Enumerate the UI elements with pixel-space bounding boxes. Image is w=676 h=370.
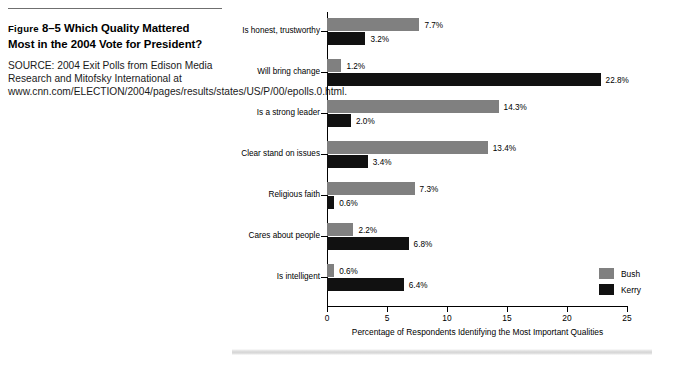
scan-artifact-band: [232, 349, 652, 355]
figure-source-note: SOURCE: 2004 Exit Polls from Edison Medi…: [8, 59, 230, 99]
category-group: Is honest, trustworthy7.7%3.2%: [228, 17, 668, 58]
category-label: Is intelligent: [170, 272, 320, 282]
category-label: Religious faith: [170, 190, 320, 200]
category-group: Clear stand on issues13.4%3.4%: [228, 140, 668, 181]
x-axis-tick: [507, 307, 508, 312]
bar-value-label: 0.6%: [339, 266, 358, 275]
bar-bush: 7.3%: [327, 182, 415, 195]
bar-value-label: 14.3%: [504, 102, 527, 111]
x-axis-tick-label: 10: [442, 313, 451, 323]
bar-kerry: 22.8%: [327, 73, 601, 86]
category-label: Will bring change: [170, 67, 320, 77]
bar-bush: 0.6%: [327, 264, 334, 277]
category-group: Is a strong leader14.3%2.0%: [228, 99, 668, 140]
bar-value-label: 6.4%: [409, 280, 428, 289]
bar-bush: 13.4%: [327, 141, 488, 154]
bar-kerry: 6.4%: [327, 278, 404, 291]
x-axis-tick: [387, 307, 388, 312]
x-axis-tick-label: 0: [325, 313, 330, 323]
bar-value-label: 2.2%: [358, 225, 377, 234]
category-label: Is a strong leader: [170, 108, 320, 118]
bar-value-label: 3.4%: [373, 157, 392, 166]
figure-number: 8–5: [42, 22, 61, 34]
bar-bush: 7.7%: [327, 18, 419, 31]
category-group: Cares about people2.2%6.8%: [228, 222, 668, 263]
bar-bush: 1.2%: [327, 59, 341, 72]
bar-value-label: 22.8%: [606, 75, 629, 84]
category-label: Is honest, trustworthy: [170, 26, 320, 36]
bar-value-label: 3.2%: [370, 34, 389, 43]
x-axis-tick-label: 20: [562, 313, 571, 323]
x-axis-title: Percentage of Respondents Identifying th…: [327, 327, 628, 337]
bar-kerry: 0.6%: [327, 196, 334, 209]
plot-area: 0510152025 Percentage of Respondents Ide…: [228, 12, 668, 312]
x-axis-tick-label: 5: [385, 313, 390, 323]
x-axis-tick: [327, 307, 328, 312]
bar-bush: 14.3%: [327, 100, 499, 113]
bar-value-label: 13.4%: [493, 143, 516, 152]
category-label: Cares about people: [170, 231, 320, 241]
x-axis-tick: [627, 307, 628, 312]
category-group: Is intelligent0.6%6.4%: [228, 263, 668, 304]
category-group: Will bring change1.2%22.8%: [228, 58, 668, 99]
x-axis-tick-label: 25: [622, 313, 631, 323]
bar-kerry: 2.0%: [327, 114, 351, 127]
bar-value-label: 6.8%: [414, 239, 433, 248]
bar-value-label: 2.0%: [356, 116, 375, 125]
bar-kerry: 3.2%: [327, 32, 365, 45]
x-axis-tick: [447, 307, 448, 312]
figure-title-line-2: Most in the 2004 Vote for President?: [8, 38, 202, 50]
bar-kerry: 3.4%: [327, 155, 368, 168]
bar-bush: 2.2%: [327, 223, 353, 236]
x-axis-tick-label: 15: [502, 313, 511, 323]
bar-value-label: 7.3%: [420, 184, 439, 193]
bar-value-label: 7.7%: [424, 20, 443, 29]
x-axis-tick: [567, 307, 568, 312]
bar-chart: 0510152025 Percentage of Respondents Ide…: [228, 12, 668, 342]
category-group: Religious faith7.3%0.6%: [228, 181, 668, 222]
bar-value-label: 1.2%: [346, 61, 365, 70]
x-axis-line: [327, 306, 628, 307]
bar-kerry: 6.8%: [327, 237, 409, 250]
figure-label: Figure: [8, 23, 39, 34]
caption-divider: [8, 8, 222, 9]
bar-value-label: 0.6%: [339, 198, 358, 207]
figure-caption-block: Figure 8–5 Which Quality Mattered Most i…: [8, 8, 230, 99]
category-label: Clear stand on issues: [170, 149, 320, 159]
